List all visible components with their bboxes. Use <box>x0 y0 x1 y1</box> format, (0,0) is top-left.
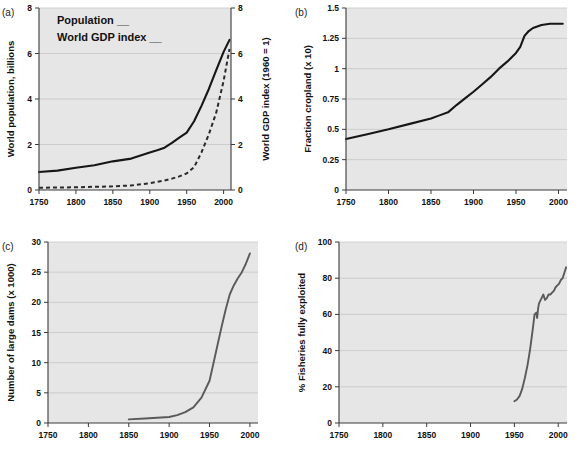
x-tick-label-c: 2000 <box>240 430 259 440</box>
x-tick-label-c: 1900 <box>160 430 179 440</box>
four-panel-global-change-figure: 1750180018501900195020000246802468World … <box>0 0 578 459</box>
legend-item-1: Population __ <box>57 14 130 26</box>
y-tick-label-d: 20 <box>323 382 333 392</box>
y-tick-label-c: 25 <box>32 267 42 277</box>
x-tick-label-b: 1750 <box>337 197 356 207</box>
y2-tick-label-a: 4 <box>238 94 243 104</box>
x-tick-label-d: 2000 <box>549 430 568 440</box>
chart-panel-c: 175018001850190019502000051015202530Numb… <box>0 230 289 459</box>
y-axis-title-c: Number of large dams (x 1000) <box>5 263 16 401</box>
y-tick-label-d: 80 <box>323 273 333 283</box>
chart-panel-a: 1750180018501900195020000246802468World … <box>0 0 289 230</box>
x-tick-label-a: 1900 <box>140 197 159 207</box>
x-tick-label-d: 1950 <box>505 430 524 440</box>
y-tick-label-a: 0 <box>27 185 32 195</box>
x-tick-label-a: 1950 <box>177 197 196 207</box>
y-tick-label-b: 1 <box>334 64 339 74</box>
y-tick-label-c: 30 <box>32 237 42 247</box>
y-tick-label-d: 100 <box>318 237 332 247</box>
legend-item-2: World GDP index __ <box>57 31 163 43</box>
y2-tick-label-a: 6 <box>238 49 243 59</box>
x-tick-label-d: 1750 <box>330 430 349 440</box>
x-tick-label-b: 1850 <box>422 197 441 207</box>
x-tick-label-a: 2000 <box>214 197 233 207</box>
y-tick-label-a: 8 <box>27 3 32 13</box>
y-tick-label-a: 4 <box>27 94 32 104</box>
x-tick-label-d: 1850 <box>417 430 436 440</box>
chart-panel-b: 17501800185019001950200000.250.50.7511.2… <box>289 0 578 230</box>
panel-label-c: (c) <box>2 241 14 252</box>
y-tick-label-c: 15 <box>32 328 42 338</box>
y-tick-label-b: 0 <box>334 185 339 195</box>
y-tick-label-c: 5 <box>36 388 41 398</box>
x-tick-label-a: 1800 <box>66 197 85 207</box>
y-tick-label-b: 1.25 <box>322 33 339 43</box>
y-tick-label-c: 10 <box>32 358 42 368</box>
y-tick-label-a: 6 <box>27 49 32 59</box>
y-axis-title-b: Fraction cropland (x 10) <box>302 45 313 153</box>
x-tick-label-a: 1750 <box>30 197 49 207</box>
x-tick-label-b: 2000 <box>549 197 568 207</box>
x-tick-label-c: 1800 <box>79 430 98 440</box>
x-tick-label-c: 1850 <box>119 430 138 440</box>
y-tick-label-c: 20 <box>32 297 42 307</box>
y-tick-label-c: 0 <box>36 418 41 428</box>
y-tick-label-b: 0.5 <box>327 124 339 134</box>
y-axis-title-a: World population, billions <box>5 41 16 157</box>
x-tick-label-b: 1800 <box>379 197 398 207</box>
y-tick-label-d: 0 <box>327 418 332 428</box>
x-tick-label-c: 1950 <box>200 430 219 440</box>
y-tick-label-d: 60 <box>323 309 333 319</box>
x-tick-label-b: 1950 <box>507 197 526 207</box>
y-tick-label-b: 0.25 <box>322 155 339 165</box>
chart-panel-d: 175018001850190019502000020406080100% Fi… <box>289 230 578 459</box>
panel-label-b: (b) <box>295 7 307 18</box>
x-tick-label-d: 1900 <box>461 430 480 440</box>
y2-tick-label-a: 2 <box>238 140 243 150</box>
x-tick-label-b: 1900 <box>464 197 483 207</box>
x-tick-label-d: 1800 <box>373 430 392 440</box>
x-tick-label-c: 1750 <box>39 430 58 440</box>
panel-label-a: (a) <box>2 7 14 18</box>
panel-label-d: (d) <box>295 241 307 252</box>
y2-axis-title-a: World GDP index (1960 = 1) <box>260 37 271 160</box>
y2-tick-label-a: 8 <box>238 3 243 13</box>
y-tick-label-b: 0.75 <box>322 94 339 104</box>
y-axis-title-d: % Fisheries fully exploited <box>296 273 307 393</box>
y2-tick-label-a: 0 <box>238 185 243 195</box>
y-tick-label-d: 40 <box>323 346 333 356</box>
x-tick-label-a: 1850 <box>103 197 122 207</box>
y-tick-label-a: 2 <box>27 140 32 150</box>
y-tick-label-b: 1.5 <box>327 3 339 13</box>
